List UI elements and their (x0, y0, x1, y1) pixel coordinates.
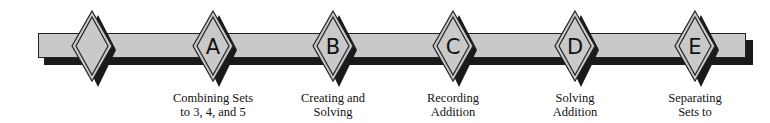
timeline-diagram: A B C D E Combinin (0, 0, 770, 123)
timeline-node-b: B (311, 11, 355, 83)
timeline-node-start (70, 11, 114, 83)
caption-b: Creating and Solving (268, 92, 398, 119)
caption-line: Creating and (268, 92, 398, 106)
caption-line: Separating (630, 92, 760, 106)
caption-line: Solving (268, 106, 398, 120)
caption-e: Separating Sets to (630, 92, 760, 119)
caption-line: Combining Sets (148, 92, 278, 106)
caption-line: Addition (510, 106, 640, 120)
timeline-node-d: D (553, 11, 597, 83)
caption-line: Sets to (630, 106, 760, 120)
caption-line: Addition (388, 106, 518, 120)
node-letter: B (311, 11, 355, 83)
timeline-node-c: C (431, 11, 475, 83)
caption-d: Solving Addition (510, 92, 640, 119)
caption-line: Solving (510, 92, 640, 106)
timeline-node-e: E (673, 11, 717, 83)
node-letter: C (431, 11, 475, 83)
timeline-bar (38, 33, 746, 58)
node-letter (70, 11, 114, 83)
node-letter: E (673, 11, 717, 83)
caption-line: Recording (388, 92, 518, 106)
caption-a: Combining Sets to 3, 4, and 5 (148, 92, 278, 119)
node-letter: D (553, 11, 597, 83)
caption-c: Recording Addition (388, 92, 518, 119)
timeline-node-a: A (191, 11, 235, 83)
node-letter: A (191, 11, 235, 83)
caption-line: to 3, 4, and 5 (148, 106, 278, 120)
